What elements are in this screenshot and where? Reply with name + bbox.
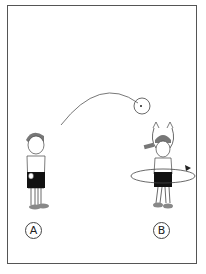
child-a-figure bbox=[26, 133, 49, 210]
ball-trajectory bbox=[61, 93, 138, 125]
child-b-figure bbox=[131, 122, 195, 209]
label-b: B bbox=[153, 222, 170, 239]
label-a: A bbox=[25, 222, 42, 239]
